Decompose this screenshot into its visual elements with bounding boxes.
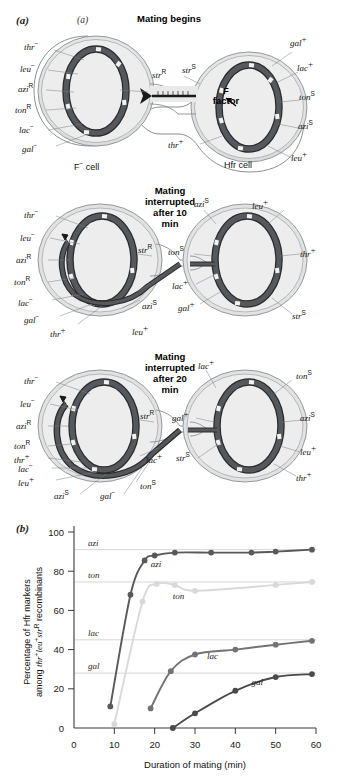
data-point-azi-7 xyxy=(273,549,279,555)
data-point-ton-5 xyxy=(273,582,279,588)
x-tick-30: 30 xyxy=(190,739,201,750)
data-point-gal-3 xyxy=(273,674,279,680)
series-label-azi: azi xyxy=(151,559,162,569)
data-point-ton-0 xyxy=(111,721,117,727)
y-tick-100: 100 xyxy=(48,527,64,538)
f-minus-cell-label: F− cell xyxy=(74,160,99,172)
data-point-lac-3 xyxy=(232,647,238,653)
hfr-cell-label: Hfr cell xyxy=(224,160,252,170)
s2-marker-gal-plus-right: gal+ xyxy=(178,300,195,313)
panel-b-chart: (b) azitonlacgal020406080100010203040506… xyxy=(0,512,339,777)
data-point-azi-4 xyxy=(172,550,178,556)
panel-b-letter: (b) xyxy=(16,522,29,534)
s3-marker-azi-s-right: aziS xyxy=(300,412,315,423)
stage-interrupted-20: Matinginterruptedafter 20min thr− leu− a… xyxy=(0,340,339,512)
series-line-azi xyxy=(110,550,312,707)
data-point-azi-2 xyxy=(142,558,148,564)
y-tick-40: 40 xyxy=(53,644,64,655)
s3-marker-lac-plus-left: lac+ xyxy=(146,452,162,465)
s2-marker-azi-s-left: aziS xyxy=(142,300,157,311)
stage-interrupted-10: Matinginterruptedafter 10min thr− leu− a… xyxy=(0,176,339,344)
s3-marker-str-r-left: strR xyxy=(140,410,154,421)
x-tick-60: 60 xyxy=(311,739,322,750)
data-point-lac-1 xyxy=(168,668,174,674)
data-point-lac-0 xyxy=(148,706,154,712)
y-tick-0: 0 xyxy=(59,723,64,734)
data-point-lac-2 xyxy=(192,652,198,658)
marker-thr-minus-left: thr− xyxy=(24,41,38,52)
data-point-gal-0 xyxy=(170,725,176,731)
s2-marker-azi-s-right: aziS xyxy=(194,198,209,209)
data-point-azi-5 xyxy=(208,550,214,556)
marker-lac-plus-right: lac+ xyxy=(297,60,313,73)
s3-marker-azi-r-left: aziR xyxy=(16,420,31,431)
data-point-ton-6 xyxy=(309,579,315,585)
s3-marker-leu-plus-left: leu+ xyxy=(18,475,34,488)
marker-azi-s-right: aziS xyxy=(298,120,313,131)
s2-marker-azi-r-left: aziR xyxy=(16,254,31,265)
stage1-title: Mating begins xyxy=(126,14,212,25)
data-point-azi-3 xyxy=(152,553,158,559)
marker-azi-r-left: aziR xyxy=(18,83,33,94)
data-point-ton-2 xyxy=(154,581,160,587)
s3-marker-leu-minus-left: leu− xyxy=(20,398,35,409)
stage-mating-begins: Mating begins thr− leu− aziR tonR lac− g… xyxy=(0,8,339,180)
x-tick-0: 0 xyxy=(71,739,76,750)
s3-marker-leu-plus-right: leu+ xyxy=(300,444,316,457)
data-point-lac-5 xyxy=(309,638,315,644)
x-axis-title: Duration of mating (min) xyxy=(144,759,246,770)
data-point-azi-0 xyxy=(107,704,113,710)
gridline-label-gal: gal xyxy=(88,661,100,671)
s2-marker-ton-r-left: tonR xyxy=(14,276,30,287)
marker-ton-s-right: tonS xyxy=(299,91,315,102)
s3-marker-thr-minus-left: thr− xyxy=(24,375,38,386)
series-label-ton: ton xyxy=(173,591,185,601)
s3-marker-gal-minus-left: gal− xyxy=(100,490,115,501)
y-tick-60: 60 xyxy=(53,605,64,616)
s2-marker-thr-plus-left: thr+ xyxy=(50,326,66,339)
s3-marker-lac-plus-right: lac+ xyxy=(198,358,214,371)
marker-gal-plus-right: gal+ xyxy=(290,35,307,48)
s2-marker-str-s-right: strS xyxy=(292,310,306,321)
series-label-gal: gal xyxy=(251,677,263,687)
panel-a-diagram: (a) (a) xyxy=(0,0,339,512)
s2-marker-leu-minus-left: leu− xyxy=(20,232,35,243)
gridline-label-azi: azi xyxy=(88,538,99,548)
x-tick-40: 40 xyxy=(230,739,241,750)
s2-marker-thr-plus-right: thr+ xyxy=(300,246,316,259)
data-point-ton-1 xyxy=(140,599,146,605)
s2-marker-ton-s-right: tonS xyxy=(168,246,184,257)
s3-marker-ton-r-left: tonR xyxy=(14,440,30,451)
data-point-azi-6 xyxy=(249,550,255,556)
s3-marker-ton-s-right: tonS xyxy=(296,370,312,381)
stage1-graphic xyxy=(0,8,339,180)
y-tick-80: 80 xyxy=(53,566,64,577)
data-point-ton-3 xyxy=(172,582,178,588)
data-point-azi-1 xyxy=(128,592,134,598)
s3-marker-gal-plus-right: gal+ xyxy=(172,410,189,423)
y-axis-title-line2: among thr+leu+strR recombinants xyxy=(33,567,45,697)
s2-marker-lac-minus-left: lac− xyxy=(18,297,33,308)
data-point-ton-4 xyxy=(192,588,198,594)
x-tick-10: 10 xyxy=(109,739,120,750)
recombinant-percentage-plot: azitonlacgal0204060801000102030405060azi… xyxy=(0,512,339,777)
marker-str-r-left: strR xyxy=(152,69,166,80)
gridline-label-lac: lac xyxy=(88,628,99,638)
marker-gal-minus-left: gal− xyxy=(22,143,37,154)
marker-str-s-right: strS xyxy=(182,64,196,75)
s3-marker-thr-plus-right: thr+ xyxy=(296,470,312,483)
data-point-azi-8 xyxy=(309,547,315,553)
marker-leu-minus-left: leu− xyxy=(20,63,35,74)
s2-marker-leu-plus-left: leu+ xyxy=(132,324,148,337)
s3-marker-str-s-right: strS xyxy=(176,452,190,463)
s2-marker-gal-minus-left: gal− xyxy=(24,314,39,325)
y-axis-title-line1: Percentage of Hfr markers xyxy=(22,579,32,685)
data-point-gal-2 xyxy=(232,688,238,694)
s3-marker-azi-s-left: aziS xyxy=(54,490,69,501)
gridline-label-ton: ton xyxy=(88,570,100,580)
data-point-lac-4 xyxy=(273,642,279,648)
s2-marker-str-r-left: strR xyxy=(138,244,152,255)
s2-marker-thr-minus-left: thr− xyxy=(24,209,38,220)
marker-leu-plus-right: leu+ xyxy=(291,150,307,163)
series-line-gal xyxy=(173,674,312,728)
